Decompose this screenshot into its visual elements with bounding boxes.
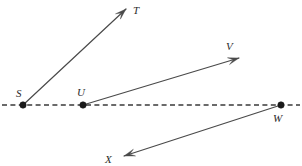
- point-dot-w: [278, 102, 284, 108]
- ray-w-to-x: [124, 105, 281, 156]
- point-label-s: S: [16, 87, 22, 99]
- point-dot-group: [20, 102, 284, 108]
- ray-s-to-t: [23, 9, 126, 105]
- point-label-x: X: [104, 153, 113, 165]
- point-label-u: U: [77, 86, 86, 98]
- ray-group: [23, 9, 281, 156]
- point-dot-s: [20, 102, 26, 108]
- point-label-t: T: [133, 4, 140, 16]
- diagram-canvas: S U W T V X: [0, 0, 302, 166]
- point-label-v: V: [226, 40, 234, 52]
- geometry-diagram: S U W T V X: [0, 0, 302, 166]
- point-label-w: W: [273, 112, 283, 124]
- point-dot-u: [80, 102, 86, 108]
- ray-u-to-v: [83, 58, 239, 105]
